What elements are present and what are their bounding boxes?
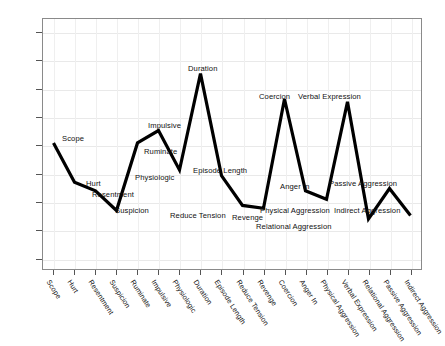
- point-label: Passive Aggression: [329, 179, 397, 188]
- x-tick-mark: [221, 270, 222, 275]
- x-tick-mark: [264, 270, 265, 275]
- point-label: Verbal Expression: [298, 92, 361, 101]
- point-label: Physical Aggression: [260, 206, 330, 215]
- plot-area: [42, 18, 422, 270]
- data-line-series: [43, 19, 421, 270]
- point-label: Suspicion: [115, 206, 149, 215]
- point-label: Resentment: [92, 190, 134, 199]
- point-label: Ruminate: [144, 147, 177, 156]
- x-tick-mark: [348, 270, 349, 275]
- x-tick-mark: [306, 270, 307, 275]
- point-label: Physiologic: [135, 173, 175, 182]
- x-tick-mark: [137, 270, 138, 275]
- point-label: Reduce Tension: [170, 211, 226, 220]
- x-tick-label: Scope: [44, 278, 63, 300]
- x-tick-mark: [243, 270, 244, 275]
- x-tick-mark: [74, 270, 75, 275]
- x-tick-mark: [158, 270, 159, 275]
- point-label: Impulsive: [148, 121, 181, 130]
- point-label: Hurt: [86, 179, 101, 188]
- point-label: Revenge: [232, 213, 263, 222]
- x-tick-mark: [53, 270, 54, 275]
- x-tick-mark: [411, 270, 412, 275]
- point-label: Indirect Aggression: [334, 206, 400, 215]
- x-tick-label: Anger In: [297, 278, 320, 306]
- point-label: Anger In: [280, 182, 310, 191]
- x-tick-mark: [390, 270, 391, 275]
- x-tick-mark: [116, 270, 117, 275]
- point-label: Scope: [62, 134, 84, 143]
- x-tick-label: Hurt: [65, 278, 80, 295]
- point-label: Duration: [188, 64, 218, 73]
- point-label: Episode Length: [193, 166, 247, 175]
- x-tick-mark: [200, 270, 201, 275]
- point-label: Coercion: [259, 92, 290, 101]
- x-tick-mark: [285, 270, 286, 275]
- x-tick-mark: [327, 270, 328, 275]
- x-tick-mark: [369, 270, 370, 275]
- x-tick-mark: [95, 270, 96, 275]
- point-label: Relational Aggression: [256, 222, 332, 231]
- x-tick-mark: [179, 270, 180, 275]
